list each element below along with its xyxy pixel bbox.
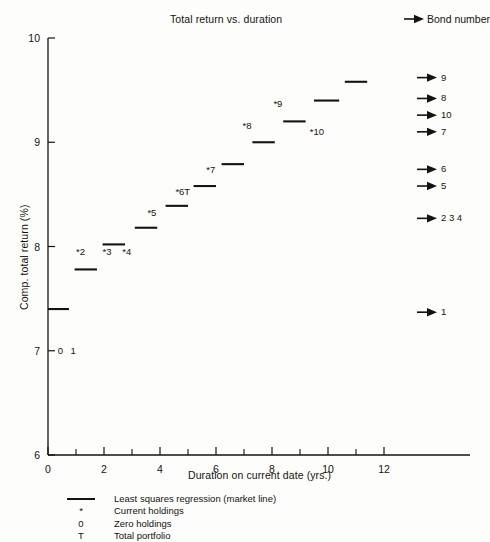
legend-line-icon [56,493,106,504]
point-label: *9 [273,99,282,109]
market-line-segments [48,82,367,309]
arrow-head [427,73,437,81]
x-tick-label: 4 [147,464,173,475]
arrow-head [427,111,437,119]
point-label: *8 [243,121,252,131]
legend-label: Current holdings [106,505,184,516]
bond-number-label: 5 [441,181,446,191]
point-label: 1 [70,346,75,356]
legend-symbol-asterisk: * [56,505,106,516]
legend-row: *Current holdings [56,505,276,518]
x-tick-label: 8 [259,464,285,475]
arrow-head [427,128,437,136]
x-tick-label: 12 [371,464,397,475]
x-tick-label: 10 [315,464,341,475]
bond-number-arrow [417,94,437,102]
legend-label: Least squares regression (market line) [106,493,276,504]
bond-number-arrow [417,128,437,136]
bond-number-arrow [417,165,437,173]
arrow-head [427,165,437,173]
legend-symbol-0: 0 [56,518,106,529]
legend-row: TTotal portfolio [56,530,276,542]
x-tick-label: 6 [203,464,229,475]
market-line-swatch [67,498,95,500]
bond-number-label: 7 [441,127,446,137]
bond-number-label: 9 [441,73,446,83]
arrow-head [427,214,437,222]
legend-label: Total portfolio [106,530,171,541]
y-tick-label: 7 [14,346,40,357]
point-label: *2 [76,247,85,257]
bond-number-label: 10 [441,110,452,120]
y-tick-label: 10 [14,33,40,44]
bond-number-label: 2 3 4 [441,213,462,223]
x-tick-label: 2 [91,464,117,475]
point-label: *4 [122,247,131,257]
y-tick-label: 8 [14,242,40,253]
arrow-head [427,308,437,316]
legend-label: Zero holdings [106,518,172,529]
arrow-head [427,182,437,190]
bond-number-arrow [417,182,437,190]
point-label: *10 [310,127,324,137]
point-label: *6T [175,187,190,197]
bond-number-arrow [417,214,437,222]
chart-legend: Least squares regression (market line)*C… [56,492,276,542]
point-label: *7 [206,165,215,175]
arrow-head [414,15,424,23]
point-label: *5 [147,208,156,218]
y-tick-label: 6 [14,450,40,461]
bond-number-label: 1 [441,307,446,317]
y-tick-label: 9 [14,137,40,148]
legend-row: Least squares regression (market line) [56,492,276,505]
bond-number-arrows [404,15,437,317]
bond-number-header-arrow [404,15,424,23]
point-label: 0 [58,346,63,356]
arrow-head [427,94,437,102]
bond-number-label: 8 [441,93,446,103]
x-tick-label: 0 [35,464,61,475]
legend-symbol-T: T [56,530,106,541]
bond-number-arrow [417,308,437,316]
bond-number-arrow [417,73,437,81]
bond-number-arrow [417,111,437,119]
bond-number-label: 6 [441,164,446,174]
legend-row: 0Zero holdings [56,517,276,530]
point-label: *3 [103,247,112,257]
